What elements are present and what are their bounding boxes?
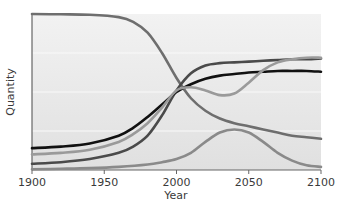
line-chart: 19001950200020502100 Year Quantity bbox=[0, 0, 351, 214]
x-tick-label: 2000 bbox=[163, 176, 191, 189]
y-axis-title: Quantity bbox=[4, 68, 17, 116]
x-axis-ticks: 19001950200020502100 bbox=[18, 170, 335, 189]
x-tick-label: 1950 bbox=[90, 176, 118, 189]
x-tick-label: 2100 bbox=[307, 176, 335, 189]
x-tick-label: 1900 bbox=[18, 176, 46, 189]
x-tick-label: 2050 bbox=[235, 176, 263, 189]
x-axis-title: Year bbox=[163, 189, 188, 202]
